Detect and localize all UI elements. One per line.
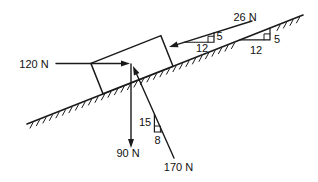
force-label-120n: 120 N xyxy=(19,58,48,70)
arrowhead-26n xyxy=(169,41,179,47)
slope-rise-label-incline: 5 xyxy=(274,33,280,45)
ink-layer xyxy=(27,15,303,158)
slope-rise-label-170n: 15 xyxy=(139,116,151,128)
slope-run-label-26n: 12 xyxy=(196,42,208,54)
force-arrow-26n-shaft xyxy=(178,21,252,44)
right-angle-mark xyxy=(264,34,270,40)
force-label-90n: 90 N xyxy=(116,147,139,159)
force-label-26n: 26 N xyxy=(233,11,256,23)
right-angle-mark xyxy=(208,36,214,42)
force-label-170n: 170 N xyxy=(164,161,193,173)
slope-run-label-incline: 12 xyxy=(250,44,262,56)
slope-run-label-170n: 8 xyxy=(154,134,160,146)
slope-rise-label-26n: 5 xyxy=(216,30,222,42)
force-arrow-26n xyxy=(169,21,252,47)
diagram-canvas: 120 N 26 N 90 N 170 N 12 5 12 5 15 8 xyxy=(0,0,318,182)
incline-hatching xyxy=(30,17,300,128)
block xyxy=(91,36,173,94)
incline-force-diagram: 120 N 26 N 90 N 170 N 12 5 12 5 15 8 xyxy=(0,0,318,182)
